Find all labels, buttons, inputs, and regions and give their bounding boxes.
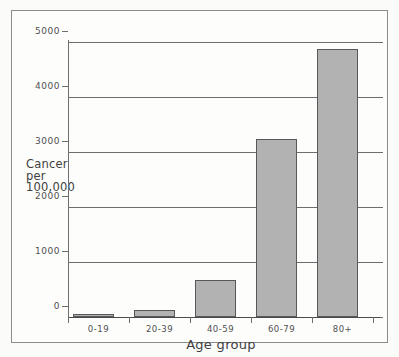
x-tick-mark-4	[312, 317, 313, 323]
x-tick-mark-2	[190, 317, 191, 323]
x-tick-mark-0	[68, 317, 69, 323]
x-tick-label-40-59: 40-59	[190, 324, 251, 334]
y-tick-label-1000: 1000	[12, 246, 60, 256]
right-tick-3000	[374, 152, 383, 153]
bar-20-39[interactable]	[134, 310, 175, 317]
y-tick-label-5000: 5000	[12, 26, 60, 36]
x-axis-title: Age group	[68, 337, 374, 352]
right-tick-1000	[374, 262, 383, 263]
y-tick-label-0: 0	[12, 301, 60, 311]
x-tick-label-80plus: 80+	[312, 324, 373, 334]
y-tick-label-2000: 2000	[12, 191, 60, 201]
y-tick-label-4000: 4000	[12, 81, 60, 91]
figure-frame: Cancer per 100,000 5000 4000 3000 2000 1…	[11, 10, 388, 343]
right-tick-4000	[374, 97, 383, 98]
x-tick-mark-3	[251, 317, 252, 323]
x-tick-label-20-39: 20-39	[129, 324, 190, 334]
plot-area	[68, 42, 374, 317]
bar-40-59[interactable]	[195, 280, 236, 317]
bar-60-79[interactable]	[256, 139, 297, 317]
x-axis-line	[68, 317, 380, 318]
x-tick-mark-1	[129, 317, 130, 323]
y-tick-mark-5000	[62, 31, 68, 32]
scanned-page-background: Cancer per 100,000 5000 4000 3000 2000 1…	[0, 0, 399, 357]
bar-80plus[interactable]	[317, 49, 358, 317]
x-tick-label-0-19: 0-19	[68, 324, 129, 334]
y-tick-label-3000: 3000	[12, 136, 60, 146]
x-tick-label-60-79: 60-79	[251, 324, 312, 334]
right-tick-2000	[374, 207, 383, 208]
gridline-5000	[68, 42, 374, 43]
right-tick-5000	[374, 42, 383, 43]
x-tick-mark-5	[373, 317, 374, 323]
